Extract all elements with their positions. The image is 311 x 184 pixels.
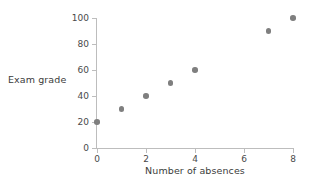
plot-area: 020406080100 02468 xyxy=(97,18,293,148)
x-axis-title: Number of absences xyxy=(97,165,293,176)
data-point xyxy=(119,106,125,112)
y-tick-mark xyxy=(92,96,97,97)
data-point xyxy=(192,67,198,73)
x-tick-label: 6 xyxy=(241,154,247,164)
y-axis-title: Exam grade xyxy=(8,74,68,85)
y-tick-mark xyxy=(92,44,97,45)
x-tick-label: 8 xyxy=(290,154,296,164)
x-tick-mark xyxy=(293,148,294,153)
y-tick-mark xyxy=(92,70,97,71)
x-tick-mark xyxy=(195,148,196,153)
y-axis-line xyxy=(96,18,97,149)
x-tick-mark xyxy=(244,148,245,153)
data-point xyxy=(290,15,296,21)
y-tick-label: 80 xyxy=(78,39,89,49)
y-tick-label: 40 xyxy=(78,91,89,101)
x-tick-label: 0 xyxy=(94,154,100,164)
x-tick-mark xyxy=(146,148,147,153)
scatter-plot-figure: Exam grade 020406080100 02468 Number of … xyxy=(0,0,311,184)
data-point xyxy=(266,28,272,34)
data-point xyxy=(94,119,100,125)
data-point xyxy=(168,80,174,86)
y-tick-mark xyxy=(92,18,97,19)
y-tick-label: 60 xyxy=(78,65,89,75)
y-tick-label: 20 xyxy=(78,117,89,127)
y-tick-label: 100 xyxy=(72,13,89,23)
x-tick-label: 4 xyxy=(192,154,198,164)
x-tick-mark xyxy=(97,148,98,153)
y-tick-label: 0 xyxy=(83,143,89,153)
x-tick-label: 2 xyxy=(143,154,149,164)
data-point xyxy=(143,93,149,99)
